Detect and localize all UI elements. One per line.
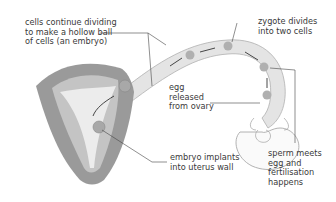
label-cells-dividing: cells continue dividing to make a hollow… — [25, 18, 117, 47]
released-egg — [263, 91, 272, 100]
ball-of-cells — [186, 51, 195, 60]
label-egg-released: egg released from ovary — [169, 83, 214, 112]
label-sperm-meets: sperm meets egg and fertilisation happen… — [268, 149, 322, 187]
implanted-embryo — [93, 121, 105, 133]
embryo-in-tube — [119, 80, 131, 92]
label-embryo-implants: embryo implants into uterus wall — [170, 153, 239, 172]
two-cell-zygote — [224, 42, 233, 51]
fertilised-egg — [260, 63, 269, 72]
label-zygote-divides: zygote divides into two cells — [258, 17, 317, 36]
